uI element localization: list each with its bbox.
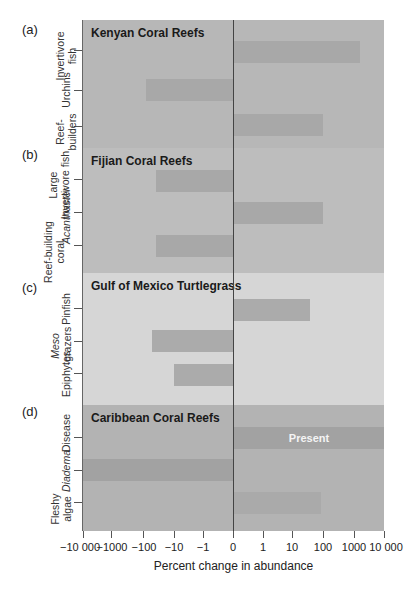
xtick <box>174 531 175 538</box>
bar-urchins <box>146 79 233 101</box>
xtick-label: 0 <box>230 541 236 553</box>
panel-b-title: Fijian Coral Reefs <box>91 154 192 168</box>
xtick-label: −10 000 <box>60 541 100 553</box>
ylabel-fleshy-algae: Fleshy algae <box>49 479 73 539</box>
ylabel-line: algae <box>61 479 73 539</box>
present-annotation: Present <box>234 427 384 449</box>
panel-letter-d: (d) <box>22 404 38 419</box>
bar-reef-builders <box>234 114 323 136</box>
ytick <box>74 502 82 503</box>
ylabel-line: Epiphytes <box>60 339 72 409</box>
xtick <box>143 531 144 538</box>
bar-diadema <box>83 459 233 481</box>
xtick-label: −100 <box>132 541 157 553</box>
ytick <box>74 308 82 309</box>
ytick <box>74 470 82 471</box>
ytick <box>74 341 82 342</box>
xtick <box>83 531 84 538</box>
xtick-label: 1000 <box>342 541 366 553</box>
xtick-label: 1 <box>260 541 266 553</box>
zero-line <box>233 20 234 531</box>
xtick-label: −1000 <box>97 541 128 553</box>
bar-acanthaster <box>234 202 323 224</box>
xtick <box>384 531 385 538</box>
xtick <box>233 531 234 538</box>
xtick <box>263 531 264 538</box>
xtick <box>354 531 355 538</box>
figure: Kenyan Coral Reefs Fijian Coral Reefs Gu… <box>0 0 419 593</box>
bar-pinfish <box>234 299 310 321</box>
xtick-label: −1 <box>197 541 210 553</box>
xtick-label: 10 000 <box>369 541 403 553</box>
panel-letter-b: (b) <box>22 147 38 162</box>
bar-large-invertivore-fish <box>156 170 233 192</box>
ytick <box>74 373 82 374</box>
ylabel-line: Fleshy <box>49 479 61 539</box>
ylabel-epiphytes: Epiphytes <box>60 339 72 409</box>
ytick <box>74 212 82 213</box>
ytick <box>74 179 82 180</box>
panel-letter-a: (a) <box>22 22 38 37</box>
xtick-label: 10 <box>286 541 298 553</box>
xtick <box>203 531 204 538</box>
bar-meso-grazers <box>152 330 233 352</box>
xtick <box>323 531 324 538</box>
ytick <box>74 245 82 246</box>
ytick <box>74 437 82 438</box>
bar-invertivore-fish <box>234 41 360 63</box>
bar-reef-building-coral <box>156 235 233 257</box>
x-axis-label: Percent change in abundance <box>0 559 419 573</box>
panel-d-title: Caribbean Coral Reefs <box>91 411 220 425</box>
bar-epiphytes <box>174 364 233 386</box>
panel-letter-c: (c) <box>22 280 37 295</box>
xtick <box>111 531 112 538</box>
xtick <box>292 531 293 538</box>
y-axis-line <box>82 20 83 531</box>
xtick-label: 100 <box>314 541 332 553</box>
xtick-label: −10 <box>165 541 184 553</box>
ylabel-line: Reef-building <box>42 207 54 297</box>
panel-c-title: Gulf of Mexico Turtlegrass <box>91 279 241 293</box>
bar-fleshy-algae <box>234 492 321 514</box>
panel-a-title: Kenyan Coral Reefs <box>91 26 204 40</box>
